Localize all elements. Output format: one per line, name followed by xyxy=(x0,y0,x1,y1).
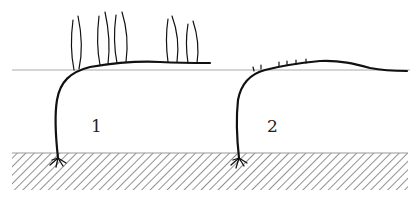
shoot-icon xyxy=(187,24,189,63)
layering-diagram xyxy=(0,0,420,202)
plant-2 xyxy=(231,59,407,168)
shoot-icon xyxy=(72,20,74,70)
plant-1-stem xyxy=(55,62,210,158)
shoot-icon xyxy=(122,12,127,62)
shoot-icon xyxy=(193,21,198,63)
shoot-icon xyxy=(167,19,169,62)
soil-region xyxy=(12,153,408,190)
plant-2-stem xyxy=(237,61,407,158)
label-1: 1 xyxy=(91,116,102,136)
plant-1 xyxy=(50,12,210,167)
shoot-icon xyxy=(172,16,178,62)
buds-icon xyxy=(253,59,306,71)
shoot-icon xyxy=(78,16,81,69)
shoot-icon xyxy=(105,12,109,64)
shoot-icon xyxy=(98,16,100,65)
label-2: 2 xyxy=(267,116,278,136)
shoot-icon xyxy=(115,15,117,63)
